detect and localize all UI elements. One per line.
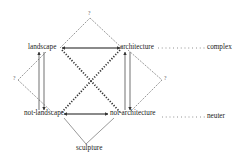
apex-label-top: ?	[88, 11, 90, 17]
node-sculpture: sculpture	[76, 145, 102, 152]
node-not-landscape: not-landscape	[24, 110, 64, 117]
node-complex: complex	[207, 44, 232, 51]
node-neuter: neuter	[207, 113, 225, 120]
right-dashed-triangle	[128, 50, 162, 112]
contradiction-diagonals	[62, 50, 120, 112]
apex-label-right: ?	[164, 76, 166, 82]
bottom-triangle	[64, 118, 114, 144]
left-dashed-triangle	[18, 52, 52, 112]
node-landscape: landscape	[28, 44, 56, 51]
node-architecture: architecture	[120, 44, 154, 51]
diagram-canvas	[0, 0, 246, 160]
top-dashed-triangle	[60, 18, 122, 48]
apex-label-left: ?	[13, 76, 15, 82]
node-not-architecture: not-architecture	[110, 110, 156, 117]
